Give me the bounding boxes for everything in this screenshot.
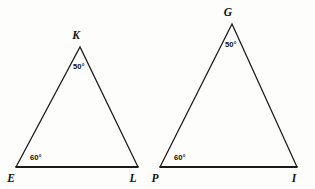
vertex-label-i: I <box>291 172 297 184</box>
vertex-label-k: K <box>71 29 81 41</box>
vertex-label-e: E <box>6 172 15 184</box>
angle-label-p-60: 60° <box>174 153 185 162</box>
geometry-figure-canvas: K E L G P I 50° 60° 50° 60° <box>0 0 315 189</box>
vertex-label-p: P <box>151 172 159 184</box>
angle-label-e-60: 60° <box>30 153 41 162</box>
triangles-svg: K E L G P I 50° 60° 50° 60° <box>0 0 315 189</box>
vertex-label-g: G <box>224 6 233 18</box>
vertex-label-l: L <box>128 172 136 184</box>
angle-label-g-50: 50° <box>225 40 236 49</box>
angle-label-k-50: 50° <box>73 62 84 71</box>
